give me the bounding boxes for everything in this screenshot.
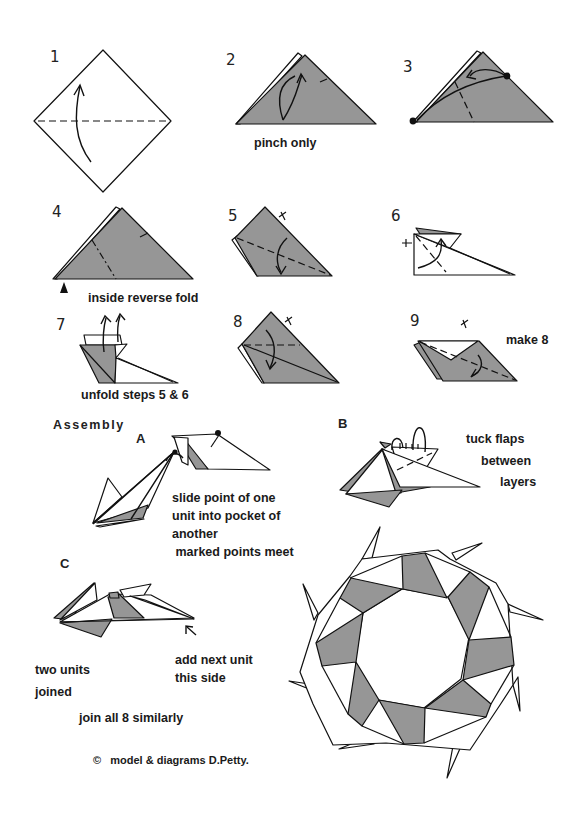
- step-number-8: 8: [233, 313, 243, 331]
- step-6-figure: [402, 228, 515, 275]
- step-number-9: 9: [410, 312, 420, 330]
- step-9-caption: make 8: [506, 331, 548, 349]
- step-number-2: 2: [226, 51, 236, 69]
- step-3-figure: [410, 51, 553, 124]
- step-number-1: 1: [50, 48, 60, 66]
- assembly-a-line-1: slide point of one: [172, 489, 294, 507]
- copyright-note: © model & diagrams D.Petty.: [93, 753, 249, 769]
- assembly-a-label: A: [136, 431, 145, 446]
- step-8-figure: [238, 312, 339, 383]
- step-number-5: 5: [228, 207, 238, 225]
- step-7-figure: [80, 314, 178, 383]
- assembly-c-joined-line-2: joined: [35, 683, 72, 701]
- step-9-figure: [414, 320, 517, 381]
- finished-star-figure: [289, 527, 543, 778]
- assembly-c-add-line-1: add next unit: [175, 651, 253, 669]
- step-1-figure: [34, 50, 171, 192]
- assembly-a-text: slide point of one unit into pocket of a…: [172, 489, 294, 562]
- assembly-b-figure: [340, 428, 480, 507]
- assembly-c-label: C: [60, 556, 69, 571]
- step-4-figure: [53, 207, 193, 293]
- assembly-c-joined-line-1: two units: [35, 661, 90, 679]
- origami-diagram: [0, 0, 580, 820]
- assembly-heading: Assembly: [53, 418, 125, 432]
- step-2-caption: pinch only: [254, 134, 317, 152]
- assembly-c-add-line-2: this side: [175, 669, 253, 687]
- assembly-c-add-note: add next unit this side: [175, 651, 253, 687]
- step-number-3: 3: [403, 58, 413, 76]
- assembly-a-line-4: marked points meet: [172, 543, 294, 561]
- assembly-c-figure: [54, 583, 196, 637]
- step-4-caption: inside reverse fold: [88, 289, 198, 307]
- assembly-b-line-3: layers: [500, 473, 536, 491]
- assembly-b-line-1: tuck flaps: [466, 430, 524, 448]
- assembly-c-all-note: join all 8 similarly: [79, 709, 183, 727]
- assembly-b-line-2: between: [481, 452, 531, 470]
- assembly-b-label: B: [338, 416, 347, 431]
- step-number-6: 6: [391, 207, 401, 225]
- step-number-4: 4: [52, 203, 62, 221]
- assembly-a-line-2: unit into pocket of: [172, 507, 294, 525]
- step-7-caption: unfold steps 5 & 6: [81, 386, 189, 404]
- step-number-7: 7: [56, 316, 66, 334]
- step-2-figure: [236, 53, 376, 124]
- assembly-a-line-3: another: [172, 525, 294, 543]
- step-5-figure: [232, 207, 332, 276]
